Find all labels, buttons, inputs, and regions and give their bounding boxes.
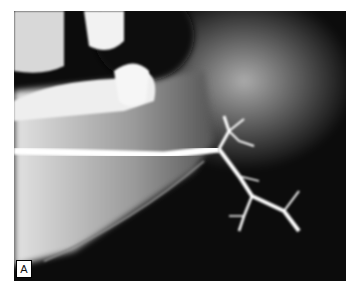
- xray-image: [14, 11, 346, 281]
- panel-label: A: [16, 260, 32, 278]
- molar: [114, 64, 149, 107]
- upper-tooth: [84, 11, 124, 50]
- upper-teeth: [14, 11, 64, 73]
- xray-graphic: [14, 11, 346, 281]
